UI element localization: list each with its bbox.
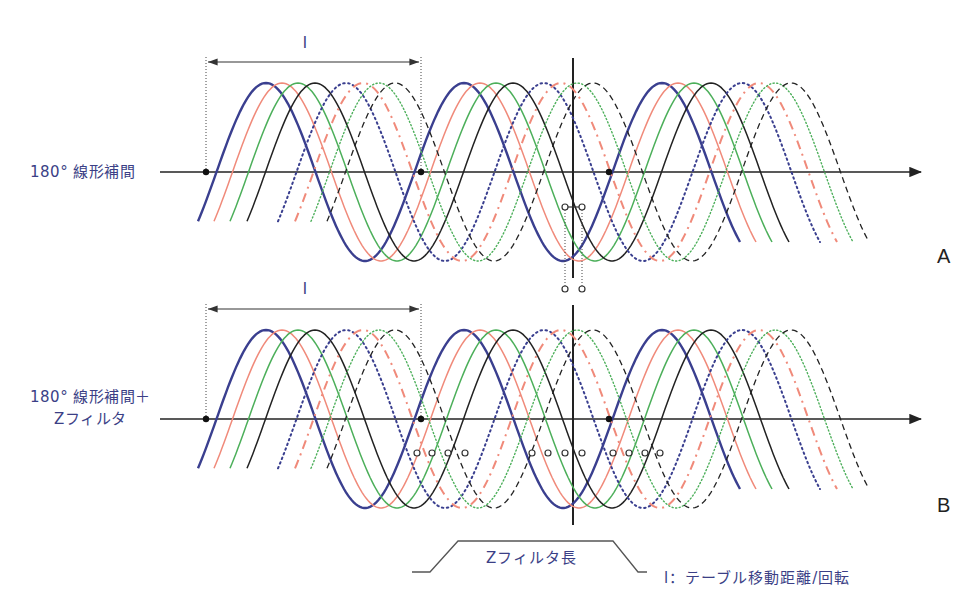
panel-a-label-line-1: 180° 線形補間 [30, 163, 135, 181]
filter-sample-point [429, 450, 435, 456]
filter-sample-point [445, 450, 451, 456]
panel-b [160, 303, 921, 525]
filter-sample-point [545, 450, 551, 456]
filter-sample-point [657, 450, 663, 456]
panel-a-id: A [937, 245, 950, 268]
filter-sample-point [626, 450, 632, 456]
panel-b-dimension-label: l [303, 279, 307, 299]
panel-a-dimension-label: l [303, 33, 307, 53]
rotation-point-2 [418, 416, 424, 422]
filter-sample-point [642, 450, 648, 456]
legend-text: l：テーブル移動距離/回転 [664, 566, 850, 587]
rotation-point-3 [606, 169, 612, 175]
filter-sample-point [462, 450, 468, 456]
sample-point [579, 204, 585, 210]
filter-sample-point [414, 450, 420, 456]
panel-a [160, 56, 921, 292]
filter-sample-point [529, 450, 535, 456]
projected-sample-point [579, 286, 585, 292]
panel-b-label: 180° 線形補間＋ Zフィルタ [30, 386, 151, 430]
helical-interpolation-diagram [0, 0, 978, 599]
panel-a-label: 180° 線形補間 [30, 160, 135, 181]
projected-sample-point [562, 286, 568, 292]
filter-sample-point [579, 450, 585, 456]
rotation-point-2 [418, 169, 424, 175]
sample-point [562, 204, 568, 210]
panel-b-label-line-2: Zフィルタ [30, 408, 151, 430]
filter-sample-point [562, 450, 568, 456]
filter-sample-point [610, 450, 616, 456]
rotation-point-1 [203, 416, 209, 422]
rotation-point-1 [203, 169, 209, 175]
panel-b-label-line-1: 180° 線形補間＋ [30, 386, 151, 408]
rotation-point-3 [606, 416, 612, 422]
filter-length-label: Zフィルタ長 [486, 546, 577, 567]
panel-b-id: B [937, 494, 950, 517]
